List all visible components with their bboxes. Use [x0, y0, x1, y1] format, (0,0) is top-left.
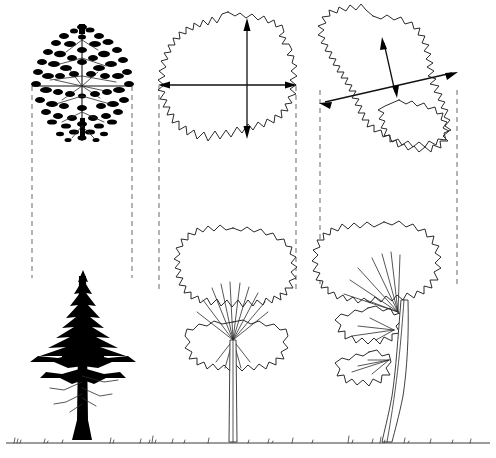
tree-crown-measurement-figure: Tree crown measurement diagram Three tre… [0, 0, 496, 458]
figure-canvas [0, 0, 496, 458]
panel-1-elevation-view-conifer [30, 270, 136, 440]
panel-2-elevation-view-broadleaf [174, 225, 297, 442]
panel-2-plan-view-crown-outline [158, 12, 297, 141]
panel-1-plan-view-rendered-canopy [31, 24, 134, 142]
panel-3-elevation-view-leaning-broadleaf [312, 221, 441, 442]
